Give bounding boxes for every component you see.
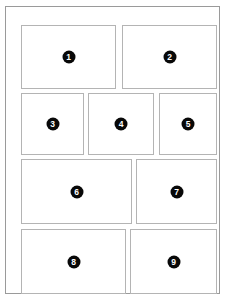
panel-number-badge: 8 xyxy=(67,255,80,268)
panel-number-badge: 1 xyxy=(62,51,75,64)
panel-number-badge: 7 xyxy=(170,185,183,198)
page-canvas: 123456789 xyxy=(0,0,226,301)
panel-6[interactable]: 6 xyxy=(21,159,132,224)
panel-7[interactable]: 7 xyxy=(136,159,217,224)
panel-8[interactable]: 8 xyxy=(21,229,126,294)
panel-number-badge: 2 xyxy=(163,51,176,64)
panel-4[interactable]: 4 xyxy=(88,93,154,155)
panel-number-badge: 5 xyxy=(182,118,195,131)
panel-5[interactable]: 5 xyxy=(159,93,217,155)
panel-3[interactable]: 3 xyxy=(21,93,84,155)
panel-grid: 123456789 xyxy=(21,25,217,294)
panel-number-badge: 3 xyxy=(46,118,59,131)
page-frame: 123456789 xyxy=(5,6,220,294)
panel-number-badge: 9 xyxy=(167,255,180,268)
panel-number-badge: 6 xyxy=(70,185,83,198)
panel-number-badge: 4 xyxy=(115,118,128,131)
panel-1[interactable]: 1 xyxy=(21,25,116,89)
panel-2[interactable]: 2 xyxy=(122,25,217,89)
panel-9[interactable]: 9 xyxy=(130,229,217,294)
